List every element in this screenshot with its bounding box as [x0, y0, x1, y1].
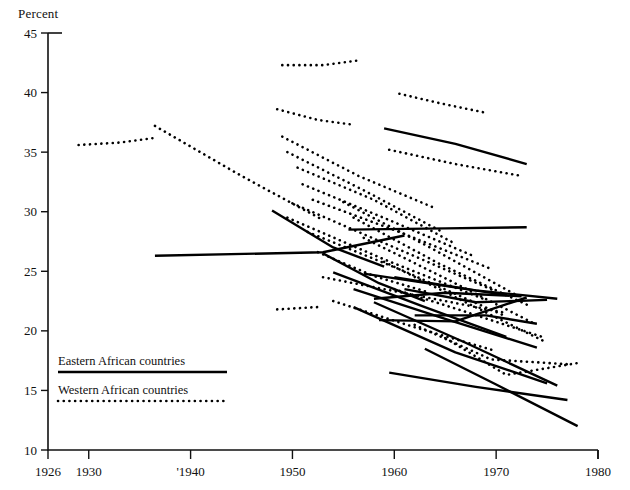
- y-tick-label: 45: [24, 26, 37, 41]
- x-tick-label: 1970: [483, 464, 509, 479]
- series-line: [287, 152, 440, 231]
- series-line: [348, 227, 526, 229]
- series-line: [384, 128, 527, 164]
- x-tick-label: 1950: [279, 464, 305, 479]
- y-tick-label: 10: [24, 443, 37, 458]
- series-line: [313, 200, 491, 269]
- series-line: [79, 138, 155, 145]
- x-tick-label: '1940: [176, 464, 204, 479]
- y-tick-label: 35: [24, 145, 37, 160]
- series-line: [155, 236, 405, 256]
- x-tick-label: 1930: [76, 464, 102, 479]
- series-line: [354, 307, 548, 383]
- y-tick-label: 30: [24, 204, 37, 219]
- x-tick-label: 1980: [585, 464, 611, 479]
- series-line: [282, 137, 435, 208]
- figure-container: Percent 101520253035404519261930'1940195…: [0, 0, 630, 490]
- line-chart: 101520253035404519261930'194019501960197…: [0, 0, 630, 490]
- y-axis-title: Percent: [18, 6, 58, 22]
- y-tick-label: 40: [24, 85, 37, 100]
- series-line: [282, 60, 358, 65]
- series-line: [399, 94, 486, 113]
- series-line: [343, 202, 516, 295]
- y-tick-label: 15: [24, 383, 37, 398]
- legend-label: Western African countries: [58, 383, 188, 397]
- y-tick-label: 20: [24, 323, 37, 338]
- x-tick-label: 1960: [381, 464, 407, 479]
- legend-label: Eastern African countries: [58, 354, 185, 368]
- series-line: [389, 150, 521, 176]
- series-line: [277, 109, 353, 124]
- y-tick-label: 25: [24, 264, 37, 279]
- x-tick-label: 1926: [35, 464, 62, 479]
- legend-layer: Eastern African countriesWestern African…: [58, 354, 227, 401]
- series-line: [277, 307, 318, 309]
- series-line: [415, 315, 537, 323]
- series-line: [364, 238, 537, 325]
